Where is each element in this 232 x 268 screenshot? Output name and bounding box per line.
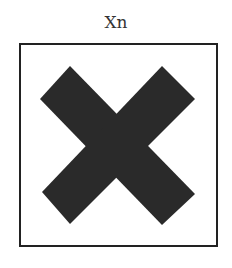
cross-icon [0, 0, 232, 268]
